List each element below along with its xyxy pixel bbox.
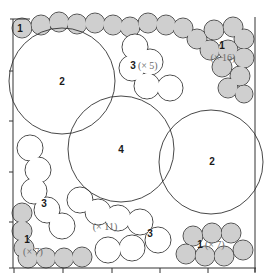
circle-packing-diagram: 1 2 3(× 5) 1 (× 16) 4 2 3 (× 11) 3 1 (× …: [0, 0, 267, 280]
label-size-1-top-left: 1: [17, 23, 23, 34]
size-3-lower-cluster: [17, 135, 171, 263]
label-size-1-bottom-right: 1(× 7): [197, 239, 224, 251]
label-size-2-right: 2: [209, 156, 215, 167]
label-size-4-center: 4: [118, 144, 124, 155]
label-size-3-bottom-center: 3: [147, 228, 153, 239]
label-size-3-left: 3: [41, 198, 47, 209]
label-size-3-top-center: 3(× 5): [130, 60, 157, 72]
label-mult-middle: (× 11): [93, 221, 117, 233]
label-mult-top-right: (× 16): [211, 52, 236, 64]
label-size-1-bottom-left: 1: [24, 234, 30, 245]
label-size-2-top-left: 2: [59, 76, 65, 87]
diagram-canvas: 1 2 3(× 5) 1 (× 16) 4 2 3 (× 11) 3 1 (× …: [0, 0, 267, 280]
label-mult-bottom-left: (× 7): [23, 246, 43, 258]
label-size-1-top-right: 1: [219, 40, 225, 51]
